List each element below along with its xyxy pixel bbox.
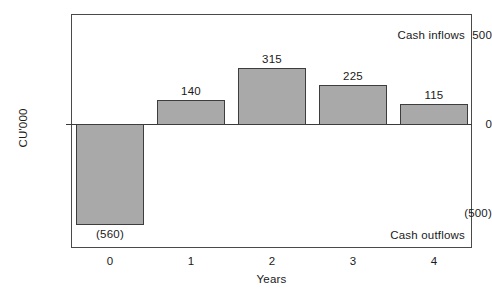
x-axis-tick-label-4: 4	[394, 255, 474, 268]
bar-value-label-year-2: 315	[232, 53, 312, 66]
x-axis-tick-label-1: 1	[151, 255, 231, 268]
x-axis-tick-label-3: 3	[313, 255, 393, 268]
x-axis-tick-label-0: 0	[70, 255, 150, 268]
bar-value-label-year-0: (560)	[70, 228, 150, 241]
bar-year-0	[76, 124, 144, 225]
bar-value-label-year-3: 225	[313, 70, 393, 83]
bar-year-3	[319, 85, 387, 125]
y-axis-tick-label-minus-500: (500)	[430, 207, 492, 219]
bar-value-label-year-4: 115	[394, 89, 474, 102]
bar-year-1	[157, 100, 225, 125]
x-axis-title: Years	[71, 273, 472, 285]
x-axis-tick-label-2: 2	[232, 255, 312, 268]
bar-year-2	[238, 68, 306, 125]
y-axis-title: CU'000	[17, 93, 29, 163]
cash-flow-bar-chart: CU'000 500 0 (500) (560) 140 315 225 115…	[0, 0, 492, 296]
bar-value-label-year-1: 140	[151, 85, 231, 98]
annotation-cash-inflows: Cash inflows	[397, 29, 465, 42]
bar-year-4	[400, 104, 468, 125]
annotation-cash-outflows: Cash outflows	[390, 229, 465, 242]
y-axis-tick-zero	[66, 124, 72, 125]
